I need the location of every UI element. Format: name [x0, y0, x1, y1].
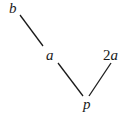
node-label-b: b — [9, 1, 17, 16]
node-label-2a: 2a — [103, 48, 118, 63]
edge-a-p — [58, 63, 83, 96]
edge-2a-p — [89, 63, 111, 96]
edge-b-a — [20, 15, 43, 46]
node-label-2a-coefficient: 2 — [103, 47, 111, 63]
hasse-diagram: b a 2a p — [0, 0, 126, 118]
node-label-p: p — [83, 97, 91, 112]
node-label-2a-variable: a — [111, 47, 119, 63]
node-label-a: a — [46, 48, 54, 63]
